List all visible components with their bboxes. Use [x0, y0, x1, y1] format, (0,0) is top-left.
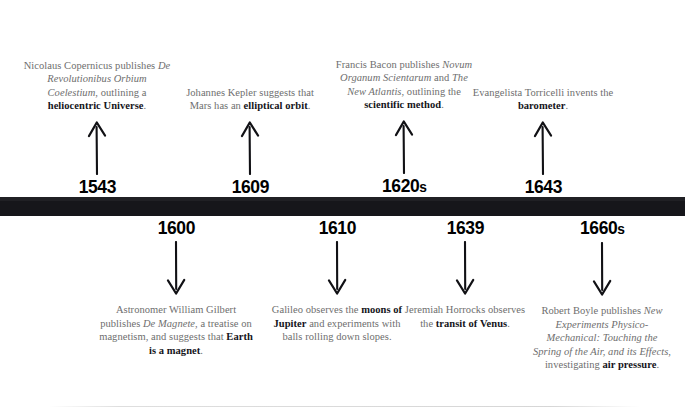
timeline-event-1609: Johannes Kepler suggests that Mars has a… [175, 86, 325, 197]
timeline-event-1639: 1639Jeremiah Horrocks observes the trans… [404, 218, 526, 330]
timeline-axis-bar [0, 197, 685, 216]
arrow-up-icon [84, 117, 110, 175]
timeline-event-1620: Francis Bacon publishes Novum Organum Sc… [330, 58, 478, 197]
year-label-1620: 1620s [382, 176, 427, 197]
year-label-1600: 1600 [157, 218, 194, 238]
event-description: Francis Bacon publishes Novum Organum Sc… [330, 58, 478, 112]
timeline-infographic: Nicolaus Copernicus publishes De Revolut… [0, 0, 685, 419]
timeline-event-1600: 1600Astronomer William Gilbert publishes… [96, 218, 256, 357]
event-description: Astronomer William Gilbert publishes De … [96, 303, 256, 357]
event-description: Johannes Kepler suggests that Mars has a… [175, 86, 325, 113]
year-label-1543: 1543 [78, 177, 115, 197]
footer-divider [48, 406, 640, 407]
timeline-event-1660: 1660sRobert Boyle publishes New Experime… [531, 218, 673, 372]
year-label-1609: 1609 [231, 177, 268, 197]
year-label-1643: 1643 [524, 177, 561, 197]
year-label-1660: 1660s [580, 218, 625, 239]
arrow-down-icon [452, 241, 478, 299]
event-description: Nicolaus Copernicus publishes De Revolut… [22, 59, 172, 113]
year-label-1610: 1610 [318, 218, 355, 238]
timeline-event-1643: Evangelista Torricelli invents the barom… [468, 86, 618, 197]
arrow-down-icon [163, 241, 189, 299]
year-suffix: s [617, 220, 624, 237]
year-label-1639: 1639 [446, 218, 483, 238]
arrow-up-icon [530, 117, 556, 175]
event-description: Jeremiah Horrocks observes the transit o… [404, 303, 526, 330]
event-description: Evangelista Torricelli invents the barom… [468, 86, 618, 113]
arrow-down-icon [589, 242, 615, 300]
arrow-down-icon [324, 241, 350, 299]
arrow-up-icon [391, 116, 417, 174]
timeline-event-1543: Nicolaus Copernicus publishes De Revolut… [22, 59, 172, 197]
year-suffix: s [419, 178, 426, 195]
timeline-event-1610: 1610Galileo observes the moons of Jupite… [266, 218, 408, 344]
event-description: Galileo observes the moons of Jupiter an… [266, 303, 408, 344]
event-description: Robert Boyle publishes New Experiments P… [531, 304, 673, 372]
arrow-up-icon [237, 117, 263, 175]
